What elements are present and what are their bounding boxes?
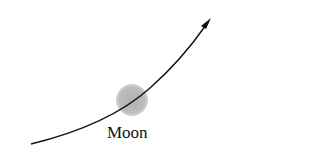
arrowhead-icon: [201, 18, 211, 29]
moon-label: Moon: [107, 124, 148, 141]
moon-disk: [116, 84, 148, 116]
